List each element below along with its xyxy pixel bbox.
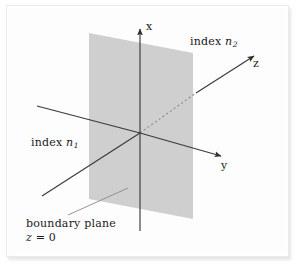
index-n2-label: index n2 [190,36,238,48]
boundary-caption-line1: boundary plane [26,217,116,230]
index-n2-subscript: 2 [232,40,237,49]
y-axis-label: y [221,160,227,172]
boundary-caption-z: z [26,231,32,244]
index-n1-subscript: 1 [73,141,78,150]
z-axis-positive-line [196,56,254,93]
boundary-plane-caption: boundary plane z = 0 [26,218,116,245]
boundary-caption-zero: 0 [49,231,56,244]
boundary-plane-shape [89,33,193,219]
x-axis-label: x [146,21,152,33]
figure-root: index n2 index n1 boundary plane z = 0 x… [0,0,297,269]
boundary-caption-line2: z = 0 [26,232,116,244]
boundary-caption-equals: = [36,231,45,244]
index-n2-word: index [190,35,221,48]
index-n1-word: index [31,136,62,149]
z-axis-label: z [253,58,259,70]
index-n1-label: index n1 [31,137,79,149]
